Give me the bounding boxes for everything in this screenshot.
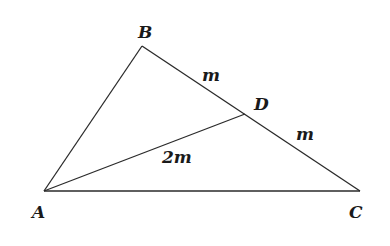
segment-label-ad: 2m bbox=[161, 147, 192, 167]
segment-ad bbox=[44, 114, 245, 191]
segment-bc bbox=[142, 46, 360, 191]
point-label-d: D bbox=[253, 94, 269, 114]
point-label-c: C bbox=[349, 202, 363, 222]
point-label-b: B bbox=[137, 22, 152, 42]
segment-ab bbox=[44, 46, 142, 191]
point-label-a: A bbox=[30, 202, 45, 222]
triangle-diagram: B A C D m m 2m bbox=[0, 0, 390, 246]
segment-label-bd: m bbox=[202, 65, 220, 85]
segment-label-dc: m bbox=[296, 124, 314, 144]
